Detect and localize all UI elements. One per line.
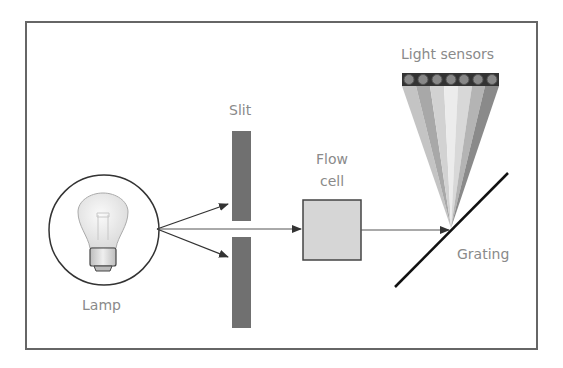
sensor-icon	[432, 75, 442, 85]
grating-label: Grating	[457, 246, 509, 262]
sensor-icon	[473, 75, 483, 85]
flow-cell-label-line1: Flow	[312, 151, 352, 167]
sensor-icon	[487, 75, 497, 85]
sensor-icon	[418, 75, 428, 85]
lamp-rays	[157, 204, 301, 257]
sensor-icon	[446, 75, 456, 85]
flow-cell-label-line2: cell	[312, 173, 352, 189]
lamp-label: Lamp	[82, 297, 121, 313]
slit-label: Slit	[229, 102, 251, 118]
dispersed-light-fan	[402, 86, 499, 228]
flow-cell	[303, 200, 361, 260]
light-sensors-label: Light sensors	[401, 46, 494, 62]
light-sensors-array	[402, 73, 499, 86]
spectrophotometer-diagram: Light sensors Slit Flow cell Grating Lam…	[0, 0, 563, 368]
sensor-icon	[459, 75, 469, 85]
sensor-icon	[404, 75, 414, 85]
lamp	[49, 175, 159, 285]
